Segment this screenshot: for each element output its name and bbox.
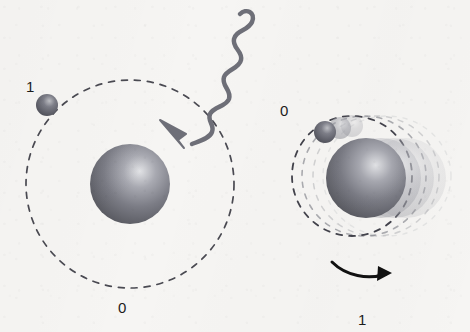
photon-group (160, 11, 253, 148)
left-nucleus-sphere (90, 144, 170, 224)
photon-wave-path (192, 11, 253, 144)
left-atom-state-label-top: 1 (26, 79, 34, 94)
right-atom-state-label-bottom: 1 (358, 312, 366, 327)
left-atom-group (26, 80, 234, 288)
left-atom-state-label-bottom: 0 (118, 300, 126, 315)
atom-photon-diagram (0, 0, 470, 332)
rotation-arrow-head (377, 266, 392, 281)
figure-canvas: 1 0 0 1 (0, 0, 470, 332)
right-nucleus-ghosts (326, 138, 446, 218)
right-electron-ghosts (314, 115, 363, 143)
right-atom-state-label-top: 0 (280, 103, 288, 118)
left-electron-sphere (36, 94, 58, 116)
right-atom-group (292, 115, 451, 281)
electron-sphere (314, 121, 336, 143)
photon-arrowhead (160, 120, 186, 148)
nucleus-sphere (326, 138, 406, 218)
